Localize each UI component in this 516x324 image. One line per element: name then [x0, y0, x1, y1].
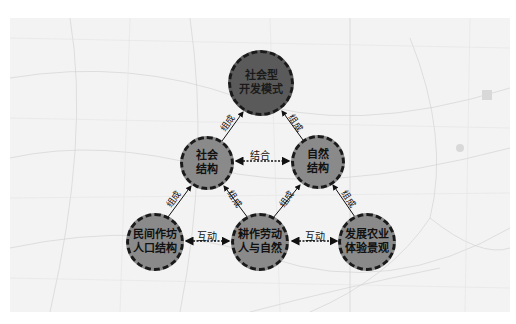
node-social-development-model: 社会型 开发模式 [228, 50, 294, 116]
node-label: 民间作坊 人口结构 [133, 228, 177, 256]
node-farming-labor: 耕作劳动 人与自然 [231, 213, 289, 271]
node-label: 发展农业 体验景观 [345, 228, 389, 256]
node-folk-workshop: 民间作坊 人口结构 [126, 213, 184, 271]
node-label: 耕作劳动 人与自然 [238, 228, 282, 256]
node-social-structure: 社会 结构 [180, 136, 234, 190]
diagram-connectors [0, 0, 516, 324]
edge-label-combine: 结合 [250, 147, 270, 162]
edge-label-interact-left: 互动 [197, 228, 217, 243]
node-label: 自然 结构 [307, 148, 329, 176]
node-label: 社会型 开发模式 [239, 69, 283, 97]
node-agri-landscape: 发展农业 体验景观 [338, 213, 396, 271]
edge-label-interact-right: 互动 [305, 228, 325, 243]
node-label: 社会 结构 [196, 149, 218, 177]
node-natural-structure: 自然 结构 [291, 135, 345, 189]
